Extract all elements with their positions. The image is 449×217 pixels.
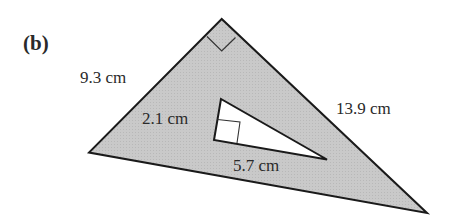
part-label: (b): [23, 31, 49, 55]
outer-left-side-label: 9.3 cm: [80, 68, 126, 87]
inner-left-side-label: 2.1 cm: [142, 109, 188, 128]
inner-bottom-side-label: 5.7 cm: [233, 156, 279, 175]
outer-right-side-label: 13.9 cm: [336, 99, 391, 118]
triangle-diagram: (b) 9.3 cm 13.9 cm 2.1 cm 5.7 cm: [0, 0, 449, 217]
